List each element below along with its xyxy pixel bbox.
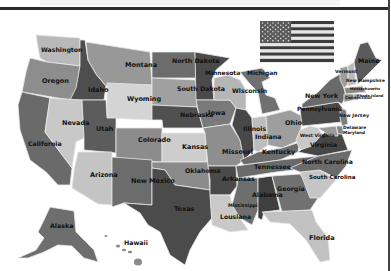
state-label: Minnesota [205, 69, 240, 76]
state-label: South Carolina [309, 174, 356, 180]
hawaii-island [134, 259, 142, 266]
us-flag-icon [260, 21, 334, 62]
state-label: Florida [309, 234, 335, 242]
state-label: South Dakota [177, 85, 225, 92]
state-label: Arizona [90, 171, 118, 179]
state-label: New York [305, 92, 339, 99]
state-label: North Carolina [302, 158, 353, 165]
state-label: Utah [96, 125, 114, 133]
state-label: Illinois [243, 125, 266, 132]
state-label: West Virginia [300, 133, 335, 138]
state-label: Wisconsin [232, 87, 267, 94]
state-alaska [18, 207, 98, 262]
state-label: California [28, 140, 62, 147]
state-label: New Mexico [131, 177, 175, 185]
state-label: Indiana [255, 133, 281, 140]
state-label: Oklahoma [185, 167, 221, 174]
state-north-dakota [152, 52, 196, 78]
state-label: North Dakota [172, 57, 219, 64]
state-label: Alaska [50, 222, 73, 229]
state-label: Ohio [285, 119, 302, 127]
state-label: Kansas [182, 143, 208, 151]
state-label: Oregon [42, 77, 69, 85]
hawaii-island [105, 235, 108, 237]
state-label: Georgia [277, 185, 305, 193]
state-label: Iowa [208, 109, 225, 117]
state-new-york [302, 74, 346, 108]
state-label: Wyoming [127, 95, 162, 103]
state-label: Vermont [335, 69, 358, 74]
us-states-map: WashingtonOregonCaliforniaIdahoNevadaMon… [0, 0, 391, 271]
state-label: Tennessee [254, 163, 291, 170]
state-label: Pennsylvania [297, 105, 342, 113]
state-label: Mississippi [228, 203, 258, 208]
state-colorado [116, 128, 162, 162]
state-label: Washington [41, 46, 82, 54]
state-label: Montana [125, 61, 157, 69]
state-label: Rhode Island [357, 94, 384, 98]
state-label: Texas [174, 205, 195, 213]
state-label: Maine [358, 57, 379, 64]
state-label: Idaho [88, 86, 109, 94]
state-label: Virginia [310, 141, 337, 149]
state-label: Hawaii [124, 239, 148, 246]
state-label: Massachusetts [350, 87, 380, 91]
hawaii-island [116, 245, 120, 248]
state-label: Lousiana [220, 213, 251, 220]
state-label: Michigan [247, 69, 278, 77]
state-label: Arkansas [222, 175, 255, 182]
hawaii-island [128, 251, 132, 254]
state-label: Alabama [252, 191, 283, 198]
hawaii-island [122, 249, 126, 252]
state-label: Missouri [222, 148, 253, 156]
state-label: Maryland [343, 130, 365, 135]
state-label: Kentucky [262, 148, 295, 156]
state-label: Colorado [138, 136, 171, 144]
state-label: Nevada [62, 119, 90, 127]
state-label: New Hampshire [346, 78, 385, 83]
